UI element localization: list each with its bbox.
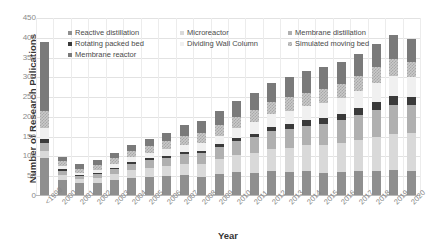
y-tick-label: 50: [27, 172, 36, 180]
bar-segment: [285, 129, 294, 148]
stacked-bar[interactable]: [337, 62, 346, 196]
stacked-bar[interactable]: [162, 133, 171, 196]
bar-segment: [40, 143, 49, 152]
bar-segment: [302, 93, 311, 106]
bar-segment: [302, 106, 311, 120]
x-tick-slot: 2001: [71, 197, 88, 229]
bar-segment: [232, 117, 241, 128]
bar-segment: [197, 133, 206, 142]
bar-segment: [337, 143, 346, 172]
stacked-bar[interactable]: [285, 77, 294, 196]
bar-segment: [319, 145, 328, 173]
bar-segment: [337, 98, 346, 114]
bar-segment: [40, 42, 49, 111]
x-axis-title: Year: [36, 230, 420, 241]
legend-item[interactable]: Microreactor: [180, 28, 288, 37]
legend-swatch-icon: [68, 42, 72, 46]
stacked-bar[interactable]: [197, 121, 206, 196]
legend-label: Membrane reactor: [75, 50, 136, 59]
x-axis-tick-labels: <199920002001200220032004200520062007200…: [36, 197, 420, 229]
legend-label: Microreactor: [187, 28, 229, 37]
x-tick-slot: 2015: [315, 197, 332, 229]
legend-swatch-icon: [68, 31, 72, 35]
bar-segment: [337, 84, 346, 98]
bar-segment: [197, 164, 206, 177]
stacked-bar[interactable]: [75, 164, 84, 196]
x-tick-slot: 2013: [280, 197, 297, 229]
stacked-bar[interactable]: [232, 101, 241, 196]
bar-segment: [162, 141, 171, 149]
bar-segment: [145, 168, 154, 177]
x-tick-slot: 2003: [106, 197, 123, 229]
y-axis-tick-labels: 450400350300250200150100500: [14, 0, 36, 250]
stacked-bar[interactable]: [267, 83, 276, 196]
stacked-bar[interactable]: [302, 71, 311, 196]
stacked-bar[interactable]: [93, 160, 102, 196]
legend-item[interactable]: Simulated moving bed: [288, 39, 388, 48]
stacked-bar[interactable]: [127, 145, 136, 196]
stacked-bar[interactable]: [250, 93, 259, 196]
legend-item[interactable]: Dividing Wall Column: [180, 39, 288, 48]
bar-segment: [354, 115, 363, 140]
bar-segment: [267, 171, 276, 196]
bar-segment: [250, 122, 259, 134]
chart-legend: Reactive distillationMicroreactorMembran…: [68, 27, 388, 60]
bar-segment: [180, 125, 189, 136]
bar-segment: [267, 149, 276, 172]
bar-segment: [372, 110, 381, 137]
legend-label: Simulated moving bed: [295, 39, 369, 48]
bar-segment: [250, 110, 259, 122]
bar-segment: [407, 62, 416, 78]
bar-segment: [232, 155, 241, 172]
bar-segment: [354, 140, 363, 172]
bar-segment: [337, 120, 346, 143]
bar-segment: [372, 102, 381, 110]
bar-segment: [372, 83, 381, 102]
stacked-bar[interactable]: [389, 35, 398, 196]
stacked-bar[interactable]: [180, 125, 189, 196]
bar-segment: [215, 111, 224, 125]
stacked-bar[interactable]: [215, 111, 224, 196]
x-tick-slot: 2006: [158, 197, 175, 229]
bar-segment: [250, 137, 259, 153]
bar-segment: [232, 101, 241, 116]
legend-item[interactable]: Membrane reactor: [68, 50, 180, 59]
bar-segment: [180, 154, 189, 163]
legend-item[interactable]: Reactive distillation: [68, 28, 180, 37]
legend-label: Dividing Wall Column: [187, 39, 258, 48]
stacked-bar[interactable]: [40, 42, 49, 196]
bar-segment: [302, 145, 311, 171]
stacked-bar[interactable]: [110, 153, 119, 196]
x-tick-slot: 2002: [88, 197, 105, 229]
bar-segment: [180, 136, 189, 145]
bar-segment: [215, 147, 224, 159]
x-tick-slot: 2016: [333, 197, 350, 229]
bar-slot: [36, 18, 53, 196]
bar-segment: [232, 128, 241, 138]
bar-segment: [354, 76, 363, 91]
bar-segment: [267, 102, 276, 115]
bar-segment: [145, 146, 154, 153]
stacked-bar[interactable]: [372, 44, 381, 196]
x-tick-slot: 2005: [141, 197, 158, 229]
legend-swatch-icon: [68, 53, 72, 57]
bar-segment: [389, 134, 398, 170]
bar-segment: [250, 93, 259, 110]
bar-segment: [40, 151, 49, 158]
x-tick-slot: <1999: [36, 197, 53, 229]
bar-segment: [285, 97, 294, 110]
stacked-bar[interactable]: [407, 39, 416, 196]
bar-segment: [285, 77, 294, 97]
legend-item[interactable]: Rotating packed bed: [68, 39, 180, 48]
x-tick-slot: 2004: [123, 197, 140, 229]
stacked-bar[interactable]: [319, 67, 328, 196]
x-tick-slot: 2019: [385, 197, 402, 229]
bar-segment: [389, 96, 398, 105]
bar-segment: [162, 166, 171, 176]
legend-item[interactable]: Membrane distillation: [288, 28, 388, 37]
bar-segment: [407, 133, 416, 171]
stacked-bar[interactable]: [354, 54, 363, 196]
bar-slot: [403, 18, 420, 196]
stacked-bar[interactable]: [145, 139, 154, 196]
bar-segment: [267, 83, 276, 101]
